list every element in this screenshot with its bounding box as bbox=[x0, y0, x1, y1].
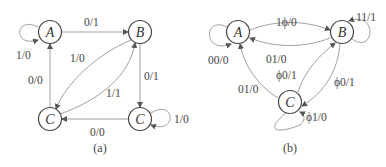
state-label: B bbox=[338, 25, 347, 40]
edge-label-a-C1-B: 1/1 bbox=[106, 87, 121, 99]
state-label: C bbox=[135, 112, 145, 127]
state-a-C2: C bbox=[129, 108, 152, 131]
edge-label-b-A-self: 00/0 bbox=[208, 54, 229, 66]
state-a-C1: C bbox=[39, 108, 62, 131]
edge-label-b-B-C: ϕ0/1 bbox=[334, 76, 355, 89]
state-b-B: B bbox=[331, 21, 354, 44]
edge-label-a-C2-self: 1/0 bbox=[174, 113, 189, 125]
edge-label-b-C-self: ϕ1/0 bbox=[306, 111, 327, 124]
state-a-B: B bbox=[129, 21, 152, 44]
state-b-C: C bbox=[279, 91, 302, 114]
state-label: C bbox=[45, 112, 55, 127]
state-diagrams: A B C C 1/0 0/1 1/0 1/1 0/0 0/1 1/0 0/0 … bbox=[0, 0, 386, 167]
edge-label-a-B-C1: 1/0 bbox=[70, 52, 85, 64]
edge-label-b-C-B: ϕ0/1 bbox=[276, 69, 297, 82]
state-a-A: A bbox=[39, 21, 62, 44]
edge-a-C2-self bbox=[151, 109, 170, 126]
caption-a: (a) bbox=[93, 141, 106, 155]
diagram-b: A B C 00/0 1ϕ/0 01/0 11/1 ϕ0/1 ϕ0/1 01/0… bbox=[208, 11, 376, 155]
edge-label-b-B-self: 11/1 bbox=[356, 11, 376, 23]
state-b-A: A bbox=[227, 21, 250, 44]
state-label: A bbox=[45, 25, 55, 40]
state-label: B bbox=[136, 25, 145, 40]
edge-b-C-self bbox=[275, 112, 304, 130]
edge-b-B-C bbox=[302, 44, 340, 106]
state-label: C bbox=[285, 95, 295, 110]
caption-b: (b) bbox=[283, 141, 297, 155]
edge-b-B-A bbox=[250, 38, 330, 46]
edge-a-A-self bbox=[20, 24, 38, 41]
edge-label-a-B-C2: 0/1 bbox=[144, 70, 159, 82]
edge-label-b-B-A: 01/0 bbox=[266, 53, 287, 65]
edge-label-b-C-A: 01/0 bbox=[238, 83, 259, 95]
edge-label-a-C2-C1: 0/0 bbox=[90, 126, 105, 138]
edge-b-C-B bbox=[298, 43, 335, 92]
state-label: A bbox=[233, 25, 243, 40]
edge-label-a-A-B: 0/1 bbox=[84, 16, 99, 28]
edge-label-b-A-B: 1ϕ/0 bbox=[276, 16, 297, 29]
edge-label-a-A-self: 1/0 bbox=[16, 49, 31, 61]
diagram-a: A B C C 1/0 0/1 1/0 1/1 0/0 0/1 1/0 0/0 … bbox=[16, 16, 189, 155]
edge-label-a-C1-A: 0/0 bbox=[28, 74, 43, 86]
